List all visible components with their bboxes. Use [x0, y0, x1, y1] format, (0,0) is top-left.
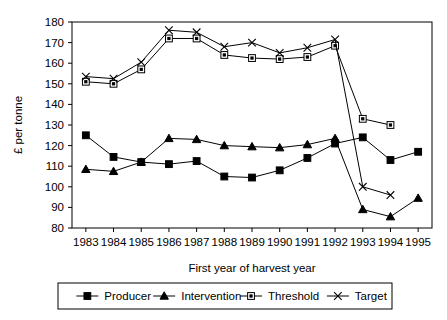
series-threshold-marker-open-square-center [362, 118, 364, 120]
x-axis-tick-label: 1987 [184, 236, 210, 248]
y-axis-tick-label: 100 [45, 181, 64, 193]
y-axis-tick-label: 130 [45, 119, 64, 131]
x-axis-tick-label: 1993 [350, 236, 376, 248]
y-axis-tick-label: 150 [45, 78, 64, 90]
x-axis-tick-label: 1984 [101, 236, 127, 248]
series-threshold-marker-open-square-center [389, 124, 391, 126]
x-axis-tick-label: 1995 [405, 236, 431, 248]
legend-producer-marker-filled-square [84, 293, 91, 300]
x-axis-tick-label: 1988 [212, 236, 238, 248]
y-axis-tick-label: 140 [45, 98, 64, 110]
series-producer-marker-filled-square [193, 158, 200, 165]
legend-threshold-marker-open-square-center [250, 295, 252, 297]
legend-label-target: Target [355, 290, 388, 302]
y-axis-tick-label: 120 [45, 140, 64, 152]
x-axis-tick-label: 1991 [295, 236, 321, 248]
series-threshold-marker-open-square-center [196, 37, 198, 39]
series-producer-marker-filled-square [110, 154, 117, 161]
x-axis-tick-label: 1986 [156, 236, 182, 248]
x-axis-tick-label: 1994 [378, 236, 404, 248]
y-axis-tick-label: 180 [45, 16, 64, 28]
series-producer-marker-filled-square [166, 161, 173, 168]
legend-label-intervention: Intervention [181, 290, 241, 302]
series-producer-marker-filled-square [82, 132, 89, 139]
series-producer-marker-filled-square [415, 148, 422, 155]
chart-container: 8090100110120130140150160170180198319841… [0, 0, 447, 320]
x-axis-tick-label: 1992 [322, 236, 348, 248]
legend-label-threshold: Threshold [268, 290, 319, 302]
series-producer-marker-filled-square [221, 173, 228, 180]
y-axis-tick-label: 160 [45, 57, 64, 69]
series-threshold-marker-open-square-center [306, 56, 308, 58]
series-threshold-marker-open-square-center [140, 68, 142, 70]
series-threshold-marker-open-square-center [251, 57, 253, 59]
series-threshold-marker-open-square-center [223, 54, 225, 56]
y-axis-tick-label: 90 [51, 201, 64, 213]
x-axis-tick-label: 1985 [128, 236, 154, 248]
series-threshold-marker-open-square-center [279, 58, 281, 60]
series-producer-marker-filled-square [249, 174, 256, 181]
y-axis-tick-label: 80 [51, 222, 64, 234]
y-axis-title: £ per tonne [12, 96, 24, 154]
x-axis-tick-label: 1983 [73, 236, 99, 248]
series-threshold-marker-open-square-center [85, 81, 87, 83]
series-threshold-marker-open-square-center [112, 83, 114, 85]
legend-label-producer: Producer [104, 290, 151, 302]
series-threshold-marker-open-square-center [168, 37, 170, 39]
x-axis-tick-label: 1990 [267, 236, 293, 248]
y-axis-tick-label: 170 [45, 37, 64, 49]
y-axis-tick-label: 110 [46, 160, 64, 172]
plot-frame [72, 22, 432, 228]
line-chart: 8090100110120130140150160170180198319841… [0, 0, 447, 320]
series-producer-marker-filled-square [359, 134, 366, 141]
series-producer-marker-filled-square [387, 157, 394, 164]
series-producer-marker-filled-square [276, 167, 283, 174]
x-axis-title: First year of harvest year [188, 262, 315, 274]
x-axis-tick-label: 1989 [239, 236, 265, 248]
series-producer-marker-filled-square [304, 155, 311, 162]
